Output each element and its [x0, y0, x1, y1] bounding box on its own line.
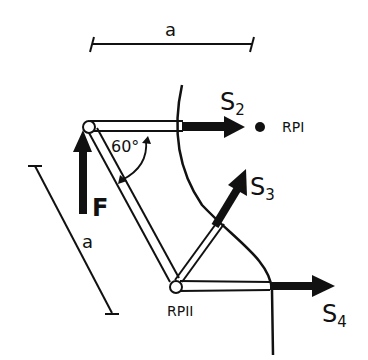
s3-label: S3: [250, 173, 275, 204]
dimension-top-label: a: [165, 19, 176, 40]
force-f-label: F: [92, 194, 108, 222]
s2-label: S2: [220, 88, 245, 119]
s4-arrow: [270, 275, 335, 297]
joint-rpii: [170, 281, 182, 293]
joint-top: [83, 121, 95, 133]
dimension-diagonal-label: a: [82, 231, 93, 252]
angle-arrowhead-top: [142, 136, 151, 144]
rpi-label: RPI: [282, 119, 304, 135]
rpi-point: [255, 122, 265, 132]
s3-arrow: [215, 169, 247, 226]
s2-arrow: [182, 116, 245, 138]
dimension-diagonal: [28, 166, 119, 314]
truss-diagram: a a F 60° S2 RPI: [0, 0, 368, 360]
angle-label: 60°: [111, 137, 139, 156]
s4-label: S4: [322, 300, 347, 331]
force-f-arrow: [73, 130, 92, 214]
rpii-label: RPII: [167, 303, 193, 319]
